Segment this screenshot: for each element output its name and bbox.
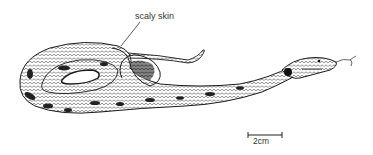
scaly-skin-label: scaly skin xyxy=(135,12,174,21)
snake-figure: scaly skin 2cm xyxy=(0,0,373,155)
collar-marking xyxy=(284,68,292,76)
scale-bar-label: 2cm xyxy=(253,137,269,146)
snake-tongue xyxy=(336,56,356,66)
snake-illustration xyxy=(0,0,373,155)
snake-eye xyxy=(318,60,321,63)
leader-line xyxy=(121,22,140,46)
